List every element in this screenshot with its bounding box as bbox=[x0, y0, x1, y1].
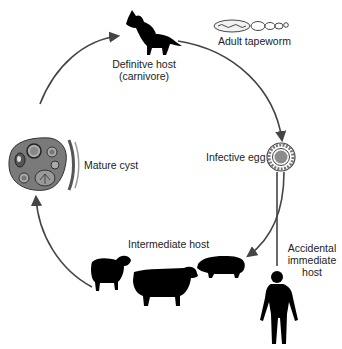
dog-silhouette-icon bbox=[126, 10, 182, 55]
arrow-egg-to-pig bbox=[248, 172, 284, 256]
arrow-intermediate-to-cyst bbox=[36, 197, 92, 287]
sheep-silhouette-icon bbox=[91, 256, 131, 291]
human-silhouette-icon bbox=[260, 271, 298, 344]
accidental-host-label-line3: host bbox=[282, 266, 342, 278]
tapeworm-icon bbox=[214, 20, 288, 32]
egg-icon bbox=[267, 143, 295, 171]
accidental-host-label: Accidental immediate host bbox=[282, 242, 342, 278]
definitive-host-label-line1: Definitve host bbox=[106, 58, 182, 70]
pig-silhouette-icon bbox=[197, 256, 245, 278]
intermediate-host-label: Intermediate host bbox=[128, 238, 209, 250]
life-cycle-diagram: Definitve host (carnivore) Adult tapewor… bbox=[0, 0, 342, 349]
mature-cyst-label: Mature cyst bbox=[84, 159, 138, 171]
definitive-host-label-line2: (carnivore) bbox=[106, 70, 182, 82]
cyst-icon bbox=[9, 138, 79, 191]
adult-tapeworm-label: Adult tapeworm bbox=[218, 35, 291, 47]
accidental-host-label-line1: Accidental bbox=[282, 242, 342, 254]
infective-egg-label: Infective egg bbox=[206, 151, 266, 163]
definitive-host-label: Definitve host (carnivore) bbox=[106, 58, 182, 82]
arrow-dog-to-egg bbox=[178, 41, 282, 140]
cow-silhouette-icon bbox=[133, 267, 198, 306]
accidental-host-label-line2: immediate bbox=[282, 254, 342, 266]
